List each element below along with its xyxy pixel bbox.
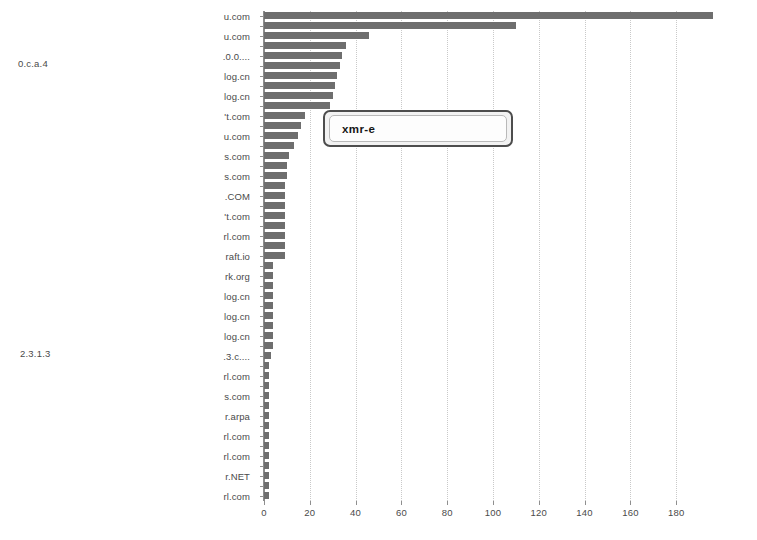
- bar[interactable]: [264, 82, 335, 89]
- bar[interactable]: [264, 162, 287, 169]
- bar[interactable]: [264, 392, 269, 399]
- bar-row[interactable]: [264, 171, 722, 181]
- bar-row[interactable]: [264, 461, 722, 471]
- bar[interactable]: [264, 182, 285, 189]
- bar-row[interactable]: [264, 161, 722, 171]
- bar[interactable]: [264, 402, 269, 409]
- y-axis-tick-label: rl.com: [224, 451, 250, 462]
- bar[interactable]: [264, 302, 273, 309]
- bar-row[interactable]: [264, 411, 722, 421]
- bar-row[interactable]: [264, 181, 722, 191]
- bar[interactable]: [264, 242, 285, 249]
- bar[interactable]: [264, 472, 269, 479]
- bar[interactable]: [264, 152, 289, 159]
- bar[interactable]: [264, 52, 342, 59]
- y-tick-mark: [260, 396, 264, 397]
- bar-row[interactable]: [264, 281, 722, 291]
- bar[interactable]: [264, 262, 273, 269]
- bar[interactable]: [264, 102, 330, 109]
- bar[interactable]: [264, 382, 269, 389]
- bar[interactable]: [264, 22, 516, 29]
- bar[interactable]: [264, 492, 269, 499]
- bar[interactable]: [264, 122, 301, 129]
- bar[interactable]: [264, 142, 294, 149]
- bar-row[interactable]: [264, 341, 722, 351]
- bar-row[interactable]: [264, 221, 722, 231]
- bar-row[interactable]: [264, 441, 722, 451]
- bar[interactable]: [264, 62, 340, 69]
- bar-row[interactable]: [264, 91, 722, 101]
- bar-row[interactable]: [264, 41, 722, 51]
- bar[interactable]: [264, 442, 269, 449]
- bar-row[interactable]: [264, 191, 722, 201]
- bar-row[interactable]: [264, 421, 722, 431]
- bar-row[interactable]: [264, 51, 722, 61]
- bar-row[interactable]: [264, 201, 722, 211]
- bar-row[interactable]: [264, 271, 722, 281]
- bar[interactable]: [264, 172, 287, 179]
- bar[interactable]: [264, 372, 269, 379]
- bar[interactable]: [264, 252, 285, 259]
- bar[interactable]: [264, 72, 337, 79]
- bar-row[interactable]: [264, 61, 722, 71]
- bar[interactable]: [264, 342, 273, 349]
- bar[interactable]: [264, 32, 369, 39]
- bar-row[interactable]: [264, 321, 722, 331]
- bar-row[interactable]: [264, 351, 722, 361]
- bar-row[interactable]: [264, 391, 722, 401]
- bar-row[interactable]: [264, 451, 722, 461]
- bar-row[interactable]: [264, 261, 722, 271]
- bar-row[interactable]: [264, 361, 722, 371]
- bar[interactable]: [264, 192, 285, 199]
- bar-row[interactable]: [264, 11, 722, 21]
- bar[interactable]: [264, 222, 285, 229]
- bar-row[interactable]: [264, 251, 722, 261]
- bar-row[interactable]: [264, 151, 722, 161]
- bar-row[interactable]: [264, 81, 722, 91]
- bar-row[interactable]: [264, 301, 722, 311]
- bar-row[interactable]: [264, 231, 722, 241]
- bar[interactable]: [264, 282, 273, 289]
- bar[interactable]: [264, 362, 269, 369]
- bar-row[interactable]: [264, 311, 722, 321]
- bar-row[interactable]: [264, 291, 722, 301]
- bar-row[interactable]: [264, 21, 722, 31]
- bar-row[interactable]: [264, 31, 722, 41]
- x-tick-label-180: 180: [668, 507, 684, 518]
- bar[interactable]: [264, 322, 273, 329]
- bar-row[interactable]: [264, 331, 722, 341]
- bar-row[interactable]: [264, 381, 722, 391]
- bar[interactable]: [264, 112, 305, 119]
- bar-row[interactable]: [264, 371, 722, 381]
- bar-row[interactable]: [264, 481, 722, 491]
- bar-row[interactable]: [264, 211, 722, 221]
- bar-row[interactable]: [264, 401, 722, 411]
- bar[interactable]: [264, 312, 273, 319]
- bar[interactable]: [264, 462, 269, 469]
- bar[interactable]: [264, 452, 269, 459]
- bar[interactable]: [264, 212, 285, 219]
- bar[interactable]: [264, 132, 298, 139]
- bar[interactable]: [264, 412, 269, 419]
- bar[interactable]: [264, 232, 285, 239]
- tooltip-popup[interactable]: xmr-e: [323, 110, 513, 147]
- bar-row[interactable]: [264, 241, 722, 251]
- bar[interactable]: [264, 432, 269, 439]
- bar[interactable]: [264, 92, 333, 99]
- bar[interactable]: [264, 202, 285, 209]
- y-tick-mark: [260, 486, 264, 487]
- bar-row[interactable]: [264, 71, 722, 81]
- bar[interactable]: [264, 292, 273, 299]
- y-tick-mark: [260, 56, 264, 57]
- y-axis-tick-label: .0.0....: [223, 51, 250, 62]
- bar-row[interactable]: [264, 491, 722, 501]
- bar[interactable]: [264, 332, 273, 339]
- bar[interactable]: [264, 352, 271, 359]
- bar-row[interactable]: [264, 471, 722, 481]
- bar[interactable]: [264, 422, 269, 429]
- bar[interactable]: [264, 272, 273, 279]
- bar[interactable]: [264, 42, 346, 49]
- bar-row[interactable]: [264, 431, 722, 441]
- bar[interactable]: [264, 482, 269, 489]
- bar[interactable]: [264, 12, 713, 19]
